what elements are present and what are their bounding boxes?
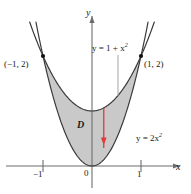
x-axis-label: x — [176, 162, 180, 172]
upper-curve-equation-text: y = 1 + x — [92, 43, 125, 53]
lower-curve-equation-label: y = 2x2 — [136, 132, 162, 143]
left-intersection-dot — [41, 54, 45, 58]
lower-curve-equation-text: y = 2x — [136, 133, 159, 143]
plot-canvas — [0, 0, 191, 194]
parabola-region-figure: y x −1 0 1 (−1, 2) (1, 2) y = 1 + x2 y =… — [0, 0, 191, 194]
upper-curve-equation-label: y = 1 + x2 — [92, 42, 128, 53]
lower-curve-exponent: 2 — [159, 132, 162, 138]
region-label-d: D — [77, 120, 84, 130]
origin-label: 0 — [84, 169, 89, 178]
right-intersection-dot — [139, 54, 143, 58]
right-intersection-label: (1, 2) — [144, 60, 164, 69]
x-tick-label-neg1: −1 — [33, 170, 43, 179]
x-tick-label-1: 1 — [137, 170, 142, 179]
left-intersection-label: (−1, 2) — [4, 60, 29, 69]
y-axis-label: y — [86, 8, 90, 18]
upper-curve-exponent: 2 — [125, 42, 128, 48]
